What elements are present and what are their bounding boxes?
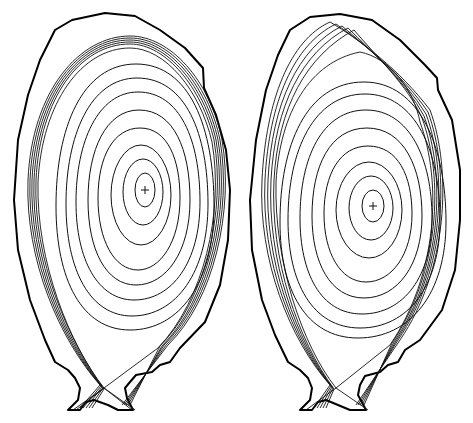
left-separatrix <box>38 48 215 410</box>
right-magnetic-axis-marker <box>369 202 377 210</box>
left-panel <box>14 13 230 410</box>
flux-surface-plots <box>0 0 473 423</box>
right-vessel-wall <box>250 14 460 410</box>
left-sol-lines <box>28 36 226 410</box>
left-vessel-wall <box>14 13 230 410</box>
left-flux-surfaces <box>56 64 214 330</box>
right-separatrix <box>276 52 433 410</box>
left-magnetic-axis-marker <box>141 186 149 194</box>
equilibrium-figure <box>0 0 473 423</box>
right-flux-surfaces <box>280 82 446 338</box>
right-panel <box>250 14 460 410</box>
right-sol-lines <box>262 22 443 410</box>
